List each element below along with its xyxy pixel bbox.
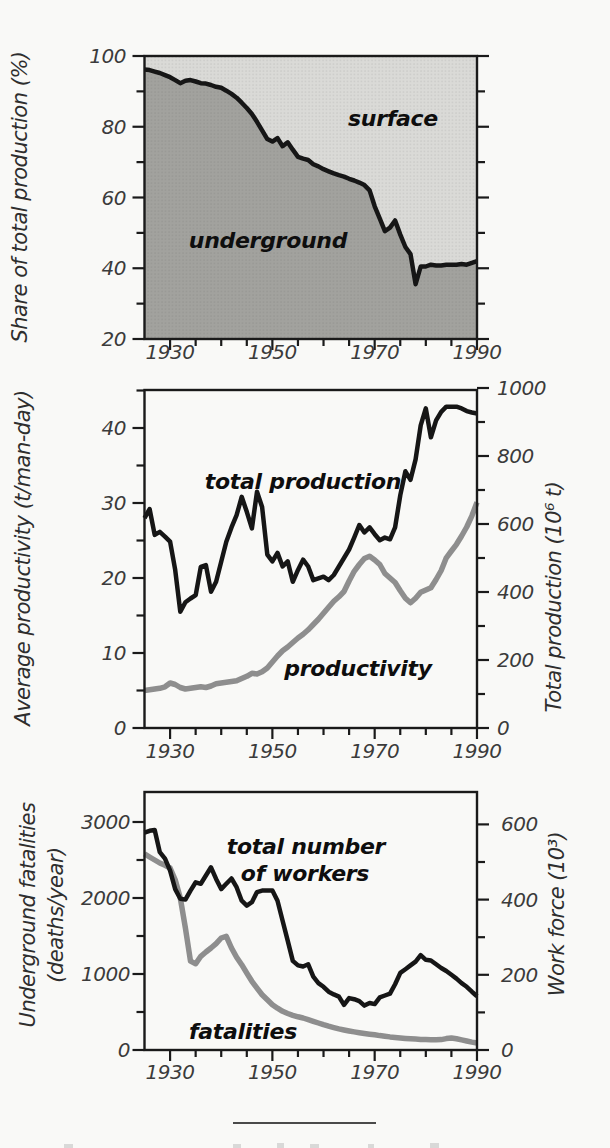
- tick-label: 200: [497, 648, 534, 672]
- tick-label: 10: [102, 641, 126, 665]
- surface-area-label: surface: [348, 106, 438, 131]
- workers-line-label-line1: total number: [227, 834, 387, 859]
- tick-label: 200: [501, 963, 538, 987]
- tick-label: 1950: [248, 1060, 297, 1084]
- fatalities-line-label: fatalities: [189, 1019, 297, 1044]
- chart2-right-y-axis-title: Total production (10⁶ t): [542, 481, 566, 712]
- tick-label: 40: [102, 256, 126, 280]
- tick-label: 20: [102, 327, 126, 351]
- tick-label: 30: [102, 491, 126, 515]
- tick-label: 0: [114, 716, 126, 740]
- tick-label: 1970: [350, 1060, 399, 1084]
- tick-label: 1930: [146, 1060, 195, 1084]
- tick-label: 400: [497, 580, 534, 604]
- tick-label: 1970: [350, 739, 399, 763]
- tick-label: 20: [102, 566, 126, 590]
- tick-label: 600: [497, 512, 534, 536]
- workers-line-label-line2: of workers: [241, 861, 370, 886]
- tick-label: 2000: [81, 886, 130, 910]
- chart2-left-y-axis-title: Average productivity (t/man-day): [11, 390, 35, 727]
- tick-label: 1970: [350, 340, 399, 364]
- cut-off-caption-remnants: [64, 1143, 439, 1148]
- tick-label: 60: [102, 186, 126, 210]
- tick-label: 1950: [248, 739, 297, 763]
- tick-label: 0: [497, 716, 509, 740]
- scanned-page: 2040608010019301950197019900102030400200…: [0, 0, 610, 1148]
- chart1-y-axis-title: Share of total production (%): [8, 51, 32, 342]
- tick-label: 1930: [146, 739, 195, 763]
- tick-label: 1000: [81, 962, 130, 986]
- underground-area-label: underground: [189, 228, 348, 253]
- tick-label: 1000: [497, 376, 546, 400]
- tick-label: 0: [118, 1038, 130, 1062]
- chart3-right-y-axis-title: Work force (10³): [545, 832, 569, 997]
- tick-label: 600: [501, 812, 538, 836]
- tick-label: 80: [102, 115, 126, 139]
- tick-label: 1930: [146, 340, 195, 364]
- tick-label: 3000: [81, 810, 130, 834]
- tick-label: 1990: [453, 1060, 502, 1084]
- tick-label: 40: [102, 416, 126, 440]
- chart3-left-y-axis-title-line1: Underground fatalities: [16, 802, 40, 1028]
- tick-label: 800: [497, 444, 534, 468]
- tick-label: 1950: [248, 340, 297, 364]
- tick-label: 1990: [453, 739, 502, 763]
- chart-graphics: 2040608010019301950197019900102030400200…: [81, 44, 546, 1084]
- chart3-left-y-axis-title-line2: (deaths/year): [44, 847, 68, 982]
- tick-label: 0: [501, 1038, 513, 1062]
- total-production-line: [145, 407, 478, 612]
- plot-frame: [145, 792, 478, 1050]
- halftone-texture: [145, 56, 478, 339]
- coal-mining-three-panel-figure: 2040608010019301950197019900102030400200…: [0, 0, 610, 1148]
- productivity-line-label: productivity: [283, 656, 433, 681]
- tick-label: 1990: [453, 340, 502, 364]
- total-production-line-label: total production: [205, 469, 401, 494]
- tick-label: 400: [501, 888, 538, 912]
- tick-label: 100: [89, 44, 126, 68]
